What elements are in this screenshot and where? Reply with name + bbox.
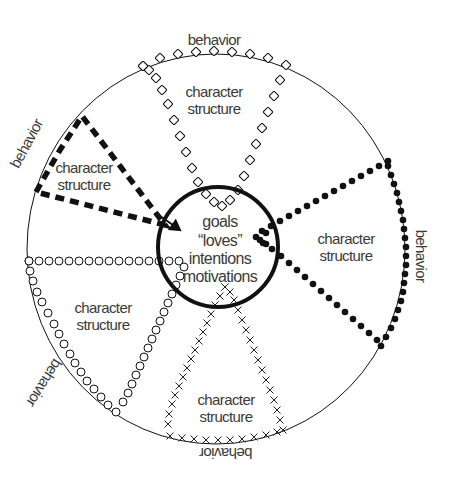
bottom-behavior-label: behavior [199,445,252,462]
bottom-structure-label: structure [200,408,253,425]
lower-left-structure-label: structure [77,316,130,333]
upper-left-behavior-label: behavior [6,116,46,171]
open-circle-marker-line [29,261,184,412]
core-text: goals “loves” intentions motivations [183,213,258,285]
top-character-label: character [185,83,243,100]
right-structure-label: structure [320,247,373,264]
segment-top [143,51,286,206]
right-character-label: character [317,230,375,247]
bottom-character-label: character [197,391,255,408]
core-line-motivations: motivations [183,268,258,285]
segment-lower-left [29,261,184,412]
core-line-loves: “loves” [198,232,242,249]
diamond-marker-line [143,51,286,206]
right-behavior-label: behavior [413,230,430,283]
top-behavior-label: behavior [188,31,241,48]
character-wheel-diagram: goals “loves” intentions motivations beh… [0,0,456,491]
core-line-goals: goals [202,213,238,230]
top-structure-label: structure [188,100,241,117]
lower-left-character-label: character [74,299,132,316]
upper-left-character-label: character [55,159,113,176]
upper-left-structure-label: structure [58,176,111,193]
core-line-intentions: intentions [189,250,252,267]
lower-left-behavior-label: behavior [23,356,66,410]
